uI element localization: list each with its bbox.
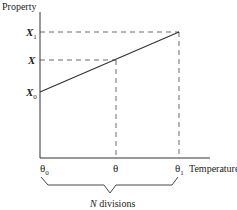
x-tick-theta: θ (113, 162, 118, 174)
y-axis-label: Property (2, 1, 36, 12)
y-tick-x1: X1 (25, 26, 37, 41)
x-axis-label: Temperature (189, 163, 237, 174)
y-tick-x0: X0 (25, 86, 37, 101)
divisions-brace (41, 177, 178, 193)
linear-interpolation-diagram: Property X1 X X0 θ0 θ θ1 Temperature (0, 0, 237, 210)
x-tick-theta1: θ1 (175, 162, 184, 177)
brace-label: N divisions (89, 198, 135, 209)
y-tick-x: X (27, 54, 36, 66)
property-line (40, 32, 179, 92)
x-tick-theta0: θ0 (40, 162, 49, 177)
